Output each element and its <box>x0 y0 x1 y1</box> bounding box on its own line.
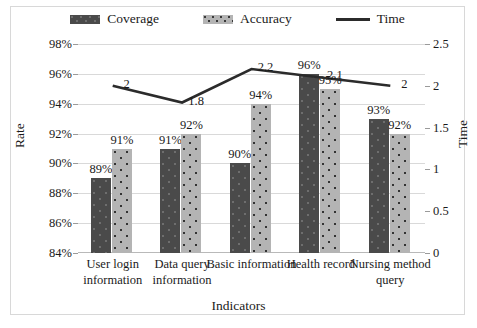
time-value-label: 1.8 <box>188 94 204 109</box>
legend-label-coverage: Coverage <box>107 12 159 26</box>
time-value-label: 2.2 <box>258 60 274 75</box>
x-axis-category-label: Nursing method query <box>344 257 436 288</box>
bar-accuracy <box>251 104 271 253</box>
bar-value-label: 94% <box>249 88 272 103</box>
chart-figure: Coverage Accuracy Time Rate Time Indicat… <box>0 0 477 328</box>
legend-label-accuracy: Accuracy <box>240 12 292 26</box>
bar-accuracy <box>320 89 340 253</box>
y-axis-right-tick-label: 2.5 <box>433 37 473 52</box>
bar-coverage <box>299 74 319 253</box>
time-value-label: 2 <box>401 77 407 92</box>
y-axis-right-tick-mark <box>425 128 430 129</box>
bar-group: 89%91% <box>78 44 147 253</box>
y-axis-left-tick-label: 88% <box>26 186 72 201</box>
y-axis-right-tick-mark <box>425 169 430 170</box>
y-axis-right-tick-label: 1 <box>433 162 473 177</box>
y-axis-right-tick-label: 2 <box>433 78 473 93</box>
legend-label-time: Time <box>377 12 405 26</box>
y-axis-right-tick-mark <box>425 253 430 254</box>
time-line-swatch-icon <box>336 18 370 21</box>
y-axis-right-tick-mark <box>425 86 430 87</box>
bar-group: 96%95% <box>286 44 355 253</box>
bar-value-label: 96% <box>298 58 321 73</box>
legend-item-coverage: Coverage <box>70 12 159 26</box>
bar-group: 90%94% <box>217 44 286 253</box>
time-value-label: 2 <box>124 77 130 92</box>
bar-value-label: 93% <box>367 103 390 118</box>
bar-coverage <box>369 119 389 253</box>
y-axis-left-tick-label: 98% <box>26 37 72 52</box>
plot-area: 84%86%88%90%92%94%96%98% 00.511.522.5 89… <box>78 44 425 253</box>
bar-value-label: 91% <box>159 133 182 148</box>
y-axis-right-tick-mark <box>425 211 430 212</box>
y-axis-right-tick-mark <box>425 44 430 45</box>
y-axis-right-tick-label: 0 <box>433 246 473 261</box>
bar-accuracy <box>390 134 410 253</box>
bar-value-label: 89% <box>90 162 113 177</box>
bar-coverage <box>91 178 111 253</box>
y-axis-left-tick-label: 96% <box>26 66 72 81</box>
y-axis-left-tick-label: 90% <box>26 156 72 171</box>
bar-value-label: 90% <box>228 147 251 162</box>
bar-coverage <box>160 149 180 254</box>
bar-group: 93%92% <box>356 44 425 253</box>
x-axis-title: Indicators <box>0 298 477 314</box>
y-axis-left-tick-mark <box>73 253 78 254</box>
time-value-label: 2.1 <box>327 68 343 83</box>
y-axis-right-tick-label: 1.5 <box>433 120 473 135</box>
legend-item-time: Time <box>336 12 405 26</box>
accuracy-swatch-icon <box>203 15 233 24</box>
chart-legend: Coverage Accuracy Time <box>10 6 465 32</box>
coverage-swatch-icon <box>70 15 100 24</box>
y-axis-left-tick-label: 86% <box>26 216 72 231</box>
bar-value-label: 91% <box>111 133 134 148</box>
y-axis-left-tick-label: 94% <box>26 96 72 111</box>
bar-coverage <box>230 163 250 253</box>
bar-group: 91%92% <box>147 44 216 253</box>
bar-value-label: 92% <box>180 118 203 133</box>
legend-item-accuracy: Accuracy <box>203 12 292 26</box>
y-axis-right-tick-label: 0.5 <box>433 204 473 219</box>
bar-value-label: 92% <box>388 118 411 133</box>
y-axis-left-tick-label: 92% <box>26 126 72 141</box>
y-axis-left-tick-label: 84% <box>26 246 72 261</box>
bar-accuracy <box>181 134 201 253</box>
bar-accuracy <box>112 149 132 254</box>
